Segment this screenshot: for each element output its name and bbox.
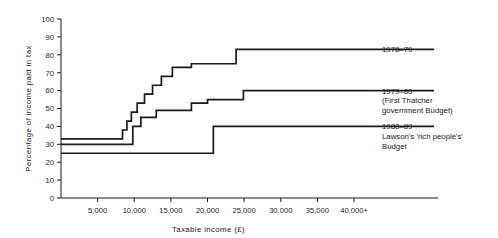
x-axis-tick-label: 25,000 xyxy=(233,206,256,215)
y-axis-tick-label: 40 xyxy=(46,122,54,131)
legend-entry-label: 1979–80 xyxy=(382,87,413,96)
x-axis-tick-label: 5,000 xyxy=(88,206,107,215)
y-axis-title: Percentage of income paid in tax xyxy=(24,45,33,171)
x-axis-tick-label: 35,000 xyxy=(306,206,329,215)
y-axis-tick-label: 70 xyxy=(46,69,54,78)
series-step-line xyxy=(61,126,434,153)
x-axis-tick-label: 20,000 xyxy=(196,206,219,215)
y-axis-tick-label: 30 xyxy=(46,140,54,149)
y-axis-tick-label: 10 xyxy=(46,176,54,185)
legend-entry-label: Lawson's 'rich people's' xyxy=(382,132,463,141)
x-axis-tick-label: 10,000 xyxy=(123,206,146,215)
y-axis-tick-label: 0 xyxy=(50,194,54,203)
legend-entry-label: Budget xyxy=(382,142,408,151)
x-axis-tick-label: 15,000 xyxy=(159,206,182,215)
legend-entry-label: 1988–89 xyxy=(382,122,412,131)
legend-entry-label: government Budget) xyxy=(382,106,453,115)
legend-entry-label: (First Thatcher xyxy=(382,96,433,105)
y-axis-tick-label: 60 xyxy=(46,86,54,95)
legend-entry-label: 1978–79 xyxy=(382,45,412,54)
series-step-line xyxy=(61,49,434,138)
y-axis-tick-label: 100 xyxy=(41,15,54,24)
y-axis-tick-label: 20 xyxy=(46,158,54,167)
y-axis-tick-label: 90 xyxy=(46,33,54,42)
x-axis-tick-label: 40,000+ xyxy=(340,206,368,215)
x-axis-title: Taxable income (£) xyxy=(172,225,245,234)
y-axis-tick-label: 50 xyxy=(46,104,54,113)
chart-canvas: 01020304050607080901005,00010,00015,0002… xyxy=(0,0,498,238)
tax-rate-step-chart: 01020304050607080901005,00010,00015,0002… xyxy=(0,0,498,238)
x-axis-tick-label: 30,000 xyxy=(269,206,292,215)
series-step-line xyxy=(61,91,434,145)
y-axis-tick-label: 80 xyxy=(46,51,54,60)
